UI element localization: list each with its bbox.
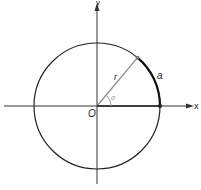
- arc-label: a: [157, 70, 163, 81]
- y-axis-label: y: [96, 0, 100, 7]
- arc-length-diagram: y x O r a α: [0, 0, 201, 190]
- x-axis-arrow-icon: [186, 104, 194, 109]
- arc-end-point: [136, 56, 140, 60]
- y-axis: [95, 3, 100, 184]
- radius-label: r: [114, 72, 118, 82]
- origin-label: O: [88, 108, 96, 119]
- x-axis-label: x: [194, 101, 199, 111]
- arc-start-point: [158, 104, 162, 108]
- arc-a: [138, 58, 161, 106]
- radius-line: [97, 58, 138, 106]
- angle-label: α: [111, 94, 116, 101]
